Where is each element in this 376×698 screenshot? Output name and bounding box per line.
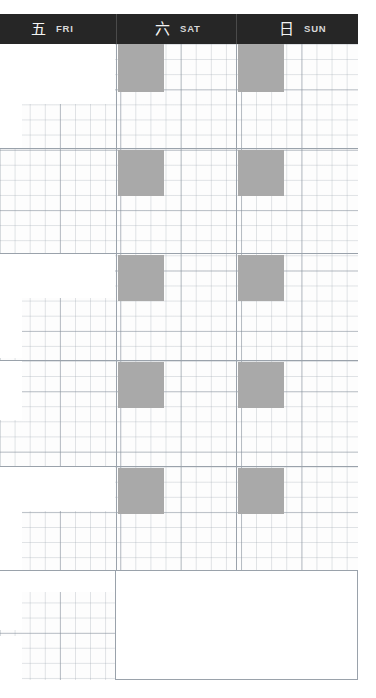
- page-edge-bottom: [0, 680, 376, 698]
- day-en-label-saturday: SAT: [180, 24, 201, 34]
- day-en-label-friday: FRI: [56, 24, 74, 34]
- weekday-header: 五 FRI 六 SAT 日 SUN: [0, 14, 358, 44]
- day-cn-label-saturday: 六: [155, 22, 170, 37]
- day-column-friday[interactable]: 五 FRI: [0, 14, 116, 44]
- sticker-sat-3[interactable]: [118, 255, 164, 301]
- mask-row-4b: [0, 466, 22, 570]
- day-column-sunday[interactable]: 日 SUN: [236, 14, 358, 44]
- mask-row-1b: [0, 44, 115, 104]
- sticker-sun-5[interactable]: [238, 468, 284, 514]
- day-column-saturday[interactable]: 六 SAT: [116, 14, 236, 44]
- sticker-sun-3[interactable]: [238, 255, 284, 301]
- sticker-sat-1[interactable]: [118, 44, 164, 92]
- horizontal-rule-4: [0, 466, 358, 467]
- graph-paper: [0, 0, 376, 698]
- sticker-sun-1[interactable]: [238, 44, 284, 92]
- page-edge-top: [0, 0, 376, 14]
- page-edge-right: [358, 0, 376, 698]
- vertical-rule-2: [236, 44, 237, 570]
- horizontal-rule-1: [0, 148, 358, 149]
- note-area[interactable]: [115, 570, 358, 680]
- day-cn-label-friday: 五: [31, 22, 46, 37]
- mask-row-3: [0, 360, 22, 420]
- mask-row-2b: [0, 253, 22, 358]
- horizontal-rule-2: [0, 253, 358, 254]
- planner-page: 五 FRI 六 SAT 日 SUN: [0, 0, 376, 698]
- sticker-sat-4[interactable]: [118, 362, 164, 408]
- vertical-rule-1: [116, 44, 117, 570]
- horizontal-rule-3: [0, 360, 358, 361]
- sticker-sun-2[interactable]: [238, 150, 284, 196]
- sticker-sat-2[interactable]: [118, 150, 164, 196]
- mask-row-6: [0, 636, 22, 680]
- sticker-sun-4[interactable]: [238, 362, 284, 408]
- sticker-sat-5[interactable]: [118, 468, 164, 514]
- mask-row-5b: [0, 570, 115, 592]
- day-cn-label-sunday: 日: [279, 22, 294, 37]
- day-en-label-sunday: SUN: [304, 24, 326, 34]
